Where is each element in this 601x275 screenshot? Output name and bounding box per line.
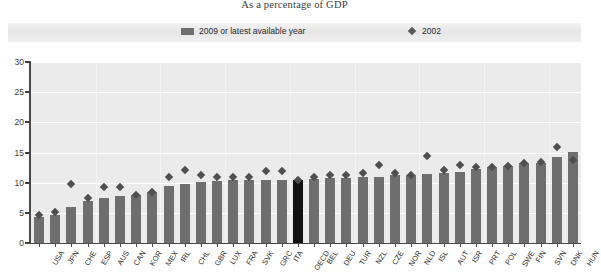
x-axis-label-svn: SVN <box>552 249 568 267</box>
x-axis-tick <box>249 243 250 247</box>
x-axis-label-lux: LUX <box>228 249 243 266</box>
x-axis-line <box>31 243 581 244</box>
bar-ita <box>277 180 287 243</box>
x-axis-tick <box>363 243 364 247</box>
y-axis-tick <box>25 152 30 154</box>
x-axis-tick <box>282 243 283 247</box>
bar-lux <box>212 181 222 243</box>
bar-bel <box>309 179 319 243</box>
x-axis-tick <box>120 243 121 247</box>
x-axis-label-fin: FIN <box>534 249 548 264</box>
y-axis-tick <box>25 61 30 63</box>
bar-dnk <box>552 157 562 243</box>
x-axis-tick <box>476 243 477 247</box>
legend-item-2002: 2002 <box>409 26 441 36</box>
bar-can <box>115 196 125 243</box>
bar-mex <box>147 192 157 243</box>
x-axis-tick <box>266 243 267 247</box>
x-axis-label-aut: AUT <box>455 249 471 266</box>
x-axis-label-svk: SVK <box>260 249 276 267</box>
x-axis-label-aus: AUS <box>115 249 131 267</box>
x-axis-tick <box>573 243 574 247</box>
x-axis-tick <box>460 243 461 247</box>
x-axis-tick <box>136 243 137 247</box>
x-axis-label-chl: CHL <box>196 249 212 267</box>
bar-svn <box>536 163 546 243</box>
x-axis-label-che: CHE <box>83 249 99 267</box>
bar-fin <box>519 163 529 243</box>
y-axis-tick <box>25 242 30 244</box>
x-axis-label-nor: NOR <box>407 249 423 268</box>
x-axis-label-can: CAN <box>131 249 147 267</box>
y-axis-tick-label: 15 <box>0 148 24 158</box>
x-axis-tick <box>185 243 186 247</box>
bar-che <box>66 207 76 243</box>
bar-kor <box>131 195 141 243</box>
x-axis-tick <box>298 243 299 247</box>
x-axis-tick <box>541 243 542 247</box>
x-axis-label-ita: ITA <box>291 249 305 263</box>
y-axis-tick-label: 30 <box>0 57 24 67</box>
bar-nld <box>406 175 416 243</box>
bar-svk <box>244 180 254 243</box>
x-gridline <box>160 62 161 243</box>
x-axis-tick <box>346 243 347 247</box>
y-gridline <box>31 213 581 214</box>
bar-cze <box>374 177 384 243</box>
legend-label-2009: 2009 or latest available year <box>199 26 305 36</box>
x-axis-tick <box>427 243 428 247</box>
x-axis-label-prt: PRT <box>487 249 503 266</box>
y-gridline <box>31 62 581 63</box>
bar-fra <box>228 180 238 243</box>
x-axis-tick <box>152 243 153 247</box>
y-axis-tick-label: 10 <box>0 178 24 188</box>
legend-bar-swatch-icon <box>181 28 194 35</box>
x-axis-label-isr: ISR <box>470 249 484 264</box>
x-axis-label-fra: FRA <box>244 249 260 266</box>
x-axis-label-nzl: NZL <box>373 249 388 266</box>
x-axis-label-usa: USA <box>50 249 66 267</box>
x-axis-label-dnk: DNK <box>568 249 584 267</box>
plot-area <box>31 62 581 243</box>
y-axis-tick-label: 5 <box>0 208 24 218</box>
x-axis-tick <box>330 243 331 247</box>
x-axis-tick <box>524 243 525 247</box>
x-axis-tick <box>557 243 558 247</box>
x-gridline <box>225 62 226 243</box>
bar-hun <box>568 152 578 243</box>
y-axis-tick-label: 25 <box>0 87 24 97</box>
x-axis-tick <box>39 243 40 247</box>
x-axis-tick <box>508 243 509 247</box>
bar-isr <box>455 172 465 243</box>
x-axis-label-irl: IRL <box>178 249 192 264</box>
x-gridline <box>355 62 356 243</box>
bar-tur <box>341 178 351 243</box>
x-axis-label-hun: HUN <box>585 249 601 268</box>
x-axis-tick <box>201 243 202 247</box>
y-axis-tick <box>25 91 30 93</box>
x-axis-tick <box>217 243 218 247</box>
bar-aut <box>439 173 449 243</box>
x-gridline <box>419 62 420 243</box>
y-gridline <box>31 122 581 123</box>
bar-nzl <box>358 177 368 243</box>
x-axis-tick <box>411 243 412 247</box>
bar-isl <box>422 174 432 243</box>
bar-aus <box>99 198 109 243</box>
x-axis-tick <box>233 243 234 247</box>
y-axis-tick <box>25 121 30 123</box>
legend-label-2002: 2002 <box>422 26 441 36</box>
chart-subtitle: As a percentage of GDP <box>0 0 589 10</box>
y-gridline <box>31 153 581 154</box>
x-axis-tick <box>104 243 105 247</box>
y-axis-tick-label: 20 <box>0 117 24 127</box>
y-axis-labels: 051015202530 <box>0 0 24 275</box>
bar-usa <box>34 217 44 243</box>
y-gridline <box>31 92 581 93</box>
y-axis-tick-label: 0 <box>0 238 24 248</box>
x-axis-label-esp: ESP <box>99 249 115 267</box>
x-axis-label-tur: TUR <box>358 249 374 267</box>
chart-legend: 2009 or latest available year 2002 <box>8 23 581 42</box>
x-axis-tick <box>379 243 380 247</box>
